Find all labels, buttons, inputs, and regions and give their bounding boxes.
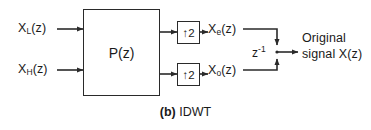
figure-caption-text: IDWT xyxy=(179,105,211,119)
label-low-input: XL(z) xyxy=(18,21,46,35)
upsampler-odd-label: ↑2 xyxy=(178,69,199,81)
label-odd-signal: Xo(z) xyxy=(208,63,236,77)
wire-even-to-junction xyxy=(243,29,277,45)
label-unit-delay: z-1 xyxy=(252,47,266,61)
label-output-signal: Originalsignal X(z) xyxy=(302,31,362,62)
upsampler-even-label: ↑2 xyxy=(178,27,199,39)
figure-idwt-block-diagram: XL(z) XH(z) P(z) ↑2 ↑2 Xe(z) Xo(z) z-1 O… xyxy=(0,0,371,130)
figure-caption: (b) IDWT xyxy=(0,105,371,119)
upsampler-block-odd: ↑2 xyxy=(177,63,200,86)
polyphase-matrix-label: P(z) xyxy=(84,45,159,61)
label-high-input: XH(z) xyxy=(18,62,48,76)
label-even-signal: Xe(z) xyxy=(208,22,236,36)
upsampler-block-even: ↑2 xyxy=(177,21,200,44)
polyphase-matrix-block: P(z) xyxy=(83,9,160,96)
figure-caption-prefix: (b) xyxy=(160,105,176,119)
